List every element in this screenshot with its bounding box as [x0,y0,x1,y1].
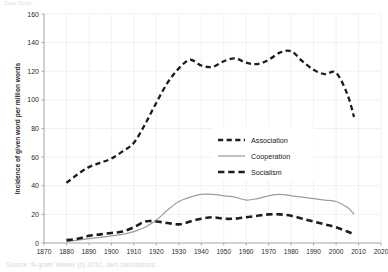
y-axis-title: Incidence of given word per million word… [14,62,22,194]
x-tick-label: 1890 [82,248,97,255]
x-tick-label: 1940 [194,248,209,255]
y-axis-label-text: Incidence of given word per million word… [14,62,22,194]
x-tick-label: 2020 [374,248,388,255]
x-tick-label: 1900 [104,248,119,255]
x-tick-label: 1970 [261,248,276,255]
x-axis-tick-labels: 1870188018901900191019201930194019501960… [37,243,388,255]
y-tick-label: 40 [31,182,39,189]
y-tick-label: 60 [31,154,39,161]
x-tick-label: 1870 [37,248,52,255]
x-tick-label: 1950 [216,248,231,255]
x-tick-label: 1910 [127,248,142,255]
x-tick-label: 1880 [59,248,74,255]
y-axis-tick-labels: 020406080100120140160 [27,11,44,247]
x-tick-label: 1960 [239,248,254,255]
y-tick-label: 100 [27,96,39,103]
x-tick-label: 1920 [149,248,164,255]
legend-label: Association [251,136,288,145]
legend-label: Socialism [251,168,282,177]
x-tick-label: 1930 [171,248,186,255]
chart-legend[interactable]: AssociationCooperationSocialism [212,127,314,180]
y-tick-label: 140 [27,39,39,46]
y-tick-label: 20 [31,211,39,218]
x-tick-label: 1990 [306,248,321,255]
chart-figure: Case Study 020406080100120140160 1870188… [0,0,388,272]
x-tick-label: 2000 [329,248,344,255]
line-chart: 020406080100120140160 187018801890190019… [0,0,388,258]
y-tick-label: 120 [27,68,39,75]
legend-label: Cooperation [251,152,290,161]
source-caption: Source: N-gram Viewer (c) 2010, own calc… [6,261,155,268]
y-tick-label: 160 [27,11,39,18]
y-tick-label: 80 [31,125,39,132]
x-tick-label: 1980 [284,248,299,255]
x-tick-label: 2010 [351,248,366,255]
y-tick-label: 0 [35,240,39,247]
